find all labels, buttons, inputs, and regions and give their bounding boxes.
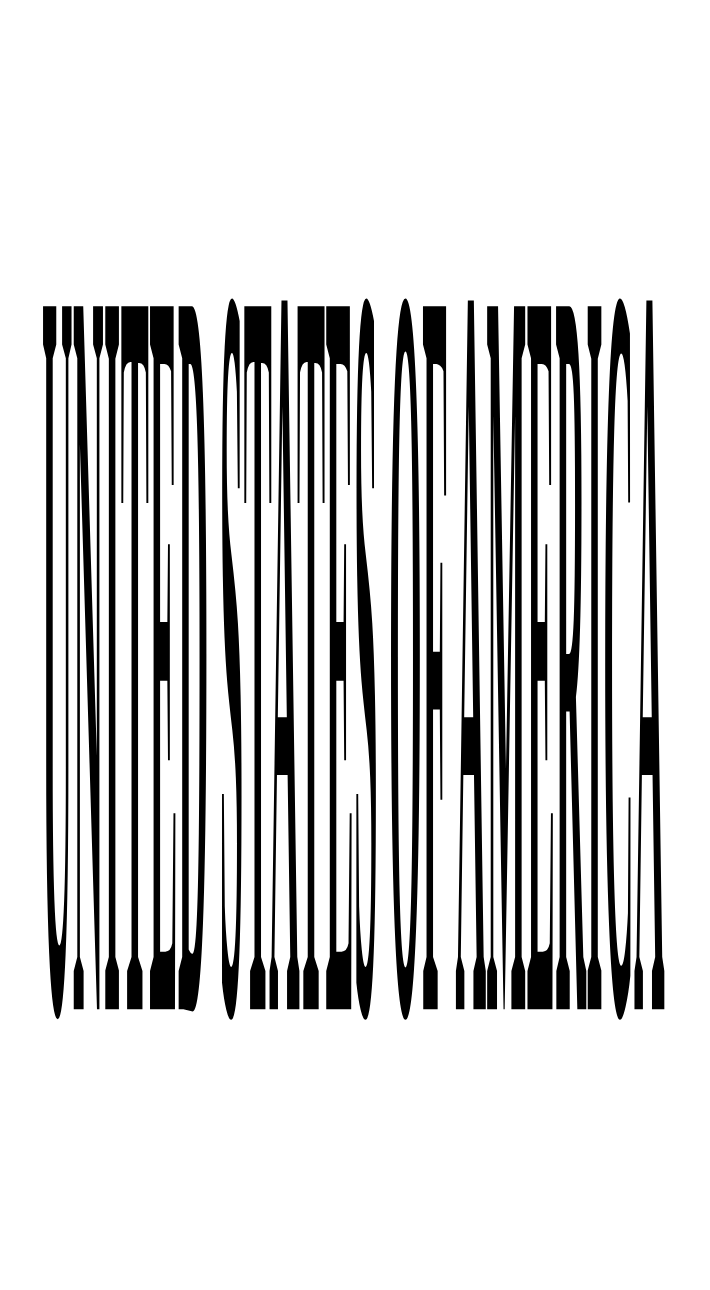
artwork-headline: UNITED STATES OF AMERICA bbox=[42, 53, 665, 1241]
canvas: UNITED STATES OF AMERICA UNITED STATES O… bbox=[0, 0, 710, 1290]
artwork-svg: UNITED STATES OF AMERICA bbox=[0, 0, 710, 1290]
stretched-text-artwork: UNITED STATES OF AMERICA bbox=[0, 0, 710, 1290]
